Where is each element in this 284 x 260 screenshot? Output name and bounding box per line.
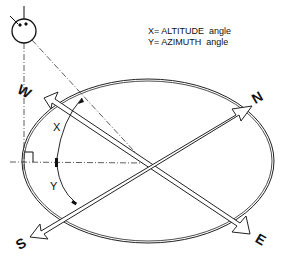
east-label: E	[253, 230, 269, 249]
x-angle-label: X	[53, 121, 61, 133]
north-label: N	[249, 88, 266, 107]
west-label: W	[15, 81, 35, 102]
y-angle-label: Y	[50, 180, 58, 192]
south-north-arrow	[30, 106, 252, 239]
azimuth-arc	[57, 166, 75, 202]
legend-altitude: X= ALTITUDE angle	[148, 26, 231, 36]
azimuth-projection-line	[10, 162, 145, 163]
legend-azimuth: Y= AZIMUTH angle	[148, 37, 228, 47]
right-angle-marker	[24, 152, 33, 162]
azimuth-tick	[55, 158, 58, 167]
sun-angle-diagram: X Y N S E W X= ALTITUDE angle Y= AZIMUTH…	[0, 0, 284, 260]
south-label: S	[13, 234, 29, 253]
sun-icon	[10, 6, 36, 43]
